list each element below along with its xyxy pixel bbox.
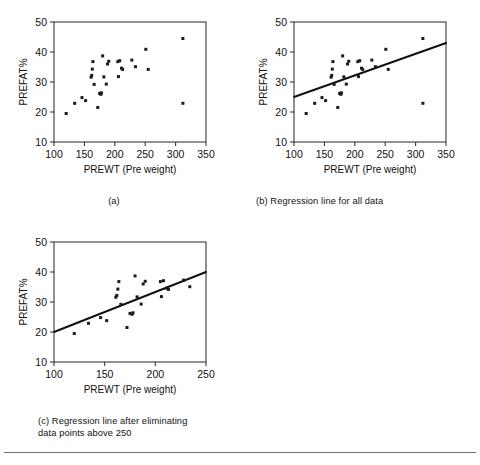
x-tick-label: 100 bbox=[45, 148, 63, 160]
data-point bbox=[361, 68, 364, 71]
data-point bbox=[147, 68, 150, 71]
data-point bbox=[182, 279, 185, 282]
x-tick-label: 150 bbox=[96, 368, 114, 380]
x-tick-label: 200 bbox=[346, 148, 364, 160]
data-point bbox=[100, 91, 103, 94]
x-tick-label: 250 bbox=[136, 148, 154, 160]
data-point bbox=[121, 68, 124, 71]
data-point bbox=[107, 60, 110, 63]
y-tick-label: 10 bbox=[35, 356, 47, 368]
data-point bbox=[336, 106, 339, 109]
y-axis-title: PREFAT% bbox=[18, 58, 29, 105]
data-point bbox=[80, 96, 83, 99]
data-point bbox=[117, 75, 120, 78]
scatter-plot-b: 1001502002503003501020304050PREWT (Pre w… bbox=[254, 8, 454, 193]
data-point bbox=[87, 322, 90, 325]
y-axis-title: PREFAT% bbox=[18, 278, 29, 325]
data-point bbox=[167, 288, 170, 291]
data-point bbox=[125, 326, 128, 329]
data-point bbox=[341, 54, 344, 57]
data-point bbox=[106, 63, 109, 66]
x-tick-label: 150 bbox=[316, 148, 334, 160]
panel-a: 1001502002503003501020304050PREWT (Pre w… bbox=[14, 8, 214, 207]
data-point bbox=[119, 303, 122, 306]
x-tick-label: 300 bbox=[167, 148, 185, 160]
data-point bbox=[73, 102, 76, 105]
panel-a-plot: 1001502002503003501020304050PREWT (Pre w… bbox=[14, 8, 214, 193]
panel-c-caption: (c) Regression line after eliminating da… bbox=[38, 415, 268, 439]
x-tick-label: 300 bbox=[407, 148, 425, 160]
data-point bbox=[159, 280, 162, 283]
panel-b-caption: (b) Regression line for all data bbox=[256, 195, 472, 207]
x-axis-title: PREWT (Pre weight) bbox=[324, 164, 417, 175]
y-tick-label: 10 bbox=[35, 136, 47, 148]
data-point bbox=[331, 68, 334, 71]
panel-b: 1001502002503003501020304050PREWT (Pre w… bbox=[254, 8, 472, 207]
data-point bbox=[370, 59, 373, 62]
data-point bbox=[117, 280, 120, 283]
data-point bbox=[134, 65, 137, 68]
data-point bbox=[421, 102, 424, 105]
data-point bbox=[324, 99, 327, 102]
y-tick-label: 20 bbox=[35, 326, 47, 338]
x-tick-label: 200 bbox=[147, 368, 165, 380]
data-point bbox=[181, 37, 184, 40]
scatter-plot-a: 1001502002503003501020304050PREWT (Pre w… bbox=[14, 8, 214, 193]
data-point bbox=[118, 59, 121, 62]
panel-b-plot: 1001502002503003501020304050PREWT (Pre w… bbox=[254, 8, 472, 193]
data-point bbox=[99, 316, 102, 319]
x-tick-label: 250 bbox=[197, 368, 215, 380]
data-point bbox=[330, 74, 333, 77]
data-point bbox=[132, 311, 135, 314]
y-tick-label: 30 bbox=[275, 76, 287, 88]
x-tick-label: 100 bbox=[45, 368, 63, 380]
y-tick-label: 40 bbox=[275, 46, 287, 58]
figure-bottom-rule bbox=[4, 452, 476, 453]
data-point bbox=[342, 75, 345, 78]
y-tick-label: 50 bbox=[35, 236, 47, 248]
data-point bbox=[136, 295, 139, 298]
scatter-plot-c: 1001502002501020304050PREWT (Pre weight)… bbox=[14, 228, 214, 413]
figure-container: 1001502002503003501020304050PREWT (Pre w… bbox=[0, 0, 480, 465]
data-point bbox=[130, 59, 133, 62]
data-point bbox=[384, 48, 387, 51]
data-point bbox=[134, 274, 137, 277]
data-point bbox=[90, 74, 93, 77]
x-axis-title: PREWT (Pre weight) bbox=[84, 384, 177, 395]
data-point bbox=[65, 112, 68, 115]
x-tick-label: 150 bbox=[76, 148, 94, 160]
y-tick-label: 40 bbox=[35, 46, 47, 58]
y-tick-label: 30 bbox=[35, 296, 47, 308]
panel-a-caption: (a) bbox=[14, 195, 214, 207]
data-point bbox=[160, 295, 163, 298]
data-point bbox=[91, 60, 94, 63]
y-tick-label: 40 bbox=[35, 266, 47, 278]
data-point bbox=[347, 60, 350, 63]
x-axis-title: PREWT (Pre weight) bbox=[84, 164, 177, 175]
data-point bbox=[73, 332, 76, 335]
data-point bbox=[142, 283, 145, 286]
y-tick-label: 30 bbox=[35, 76, 47, 88]
data-point bbox=[331, 60, 334, 63]
x-tick-label: 250 bbox=[376, 148, 394, 160]
data-point bbox=[345, 83, 348, 86]
regression-line bbox=[294, 43, 446, 97]
data-point bbox=[144, 48, 147, 51]
y-tick-label: 50 bbox=[275, 16, 287, 28]
data-point bbox=[421, 37, 424, 40]
data-point bbox=[105, 319, 108, 322]
data-point bbox=[96, 106, 99, 109]
panel-c: 1001502002501020304050PREWT (Pre weight)… bbox=[14, 228, 268, 439]
data-point bbox=[116, 288, 119, 291]
x-tick-label: 200 bbox=[106, 148, 124, 160]
data-point bbox=[305, 112, 308, 115]
panel-c-plot: 1001502002501020304050PREWT (Pre weight)… bbox=[14, 228, 268, 413]
data-point bbox=[162, 279, 165, 282]
data-point bbox=[387, 68, 390, 71]
data-point bbox=[346, 63, 349, 66]
data-point bbox=[357, 75, 360, 78]
data-point bbox=[115, 294, 118, 297]
data-point bbox=[140, 303, 143, 306]
y-tick-label: 20 bbox=[275, 106, 287, 118]
y-tick-label: 20 bbox=[35, 106, 47, 118]
